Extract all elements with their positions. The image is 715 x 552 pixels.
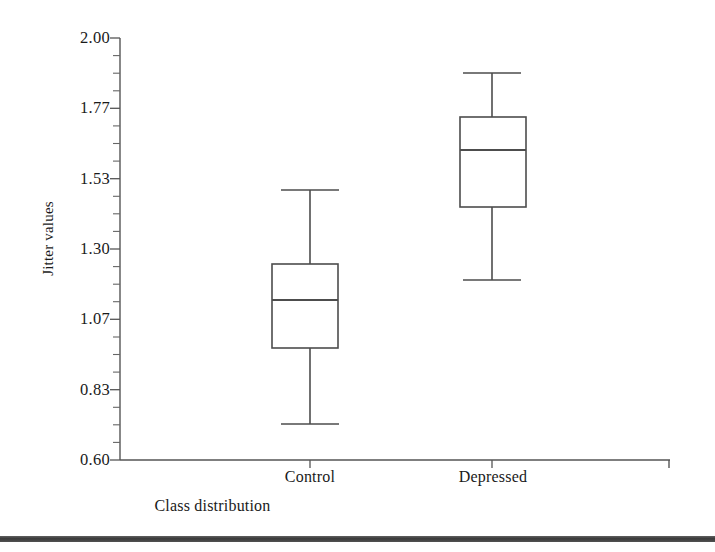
x-axis-title: Class distribution [0,497,715,515]
x-tick-label-depressed: Depressed [459,468,527,486]
boxplot-figure: Jitter values 2.00 1.77 1.53 1.30 1.07 0… [0,0,715,552]
box-control [272,190,339,424]
y-tick-label: 2.00 [48,30,110,46]
x-category-ticks [310,460,492,468]
box-rect-depressed [460,117,526,207]
y-tick-label: 1.30 [48,241,110,257]
y-tick-label: 0.83 [48,382,110,398]
y-tick-label: 1.53 [48,171,110,187]
scan-artifact-bar [0,536,715,542]
x-tick-label-control: Control [285,468,335,486]
box-rect-control [272,264,338,348]
box-depressed [460,73,526,280]
x-axis-tick-labels: Control Depressed [0,468,715,494]
y-tick-label: 1.07 [48,311,110,327]
y-tick-label: 0.60 [48,452,110,468]
y-tick-label: 1.77 [48,100,110,116]
x-axis-title-text: Class distribution [154,497,270,515]
y-major-ticks [110,38,120,460]
